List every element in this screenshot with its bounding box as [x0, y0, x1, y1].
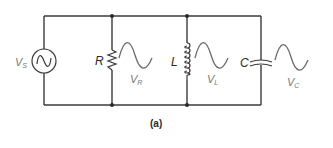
figure-caption: (a): [150, 118, 162, 129]
vr-label: VR: [130, 73, 142, 86]
parallel-rlc-circuit: VS R VR L VL C VC (a): [0, 0, 333, 148]
capacitor: C VC: [240, 45, 308, 89]
node-top-l: [185, 14, 189, 18]
inductor: L VL: [171, 43, 228, 86]
node-bottom-l: [185, 103, 189, 107]
vr-waveform-icon: [119, 43, 152, 69]
node-top-r: [110, 14, 114, 18]
circuit-wires: [44, 16, 261, 105]
resistor: R VR: [95, 43, 152, 86]
ac-source: VS: [15, 49, 56, 73]
inductor-label: L: [171, 55, 178, 69]
node-bottom-r: [110, 103, 114, 107]
source-label: VS: [15, 56, 27, 69]
inductor-coil-icon: [187, 43, 190, 75]
vl-label: VL: [207, 73, 218, 86]
capacitor-label: C: [240, 56, 249, 70]
resistor-icon: [108, 50, 116, 70]
vc-waveform-icon: [275, 45, 308, 71]
capacitor-plate-top-icon: [250, 60, 272, 62]
vl-waveform-icon: [195, 43, 228, 69]
vc-label: VC: [287, 76, 300, 89]
resistor-label: R: [95, 54, 104, 68]
sine-icon: [37, 56, 51, 67]
